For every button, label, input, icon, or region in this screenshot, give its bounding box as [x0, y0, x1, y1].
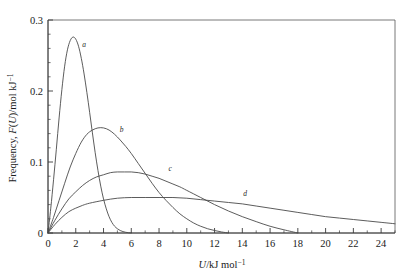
curve-label-a: a: [82, 40, 86, 49]
x-tick-label: 4: [101, 238, 107, 249]
y-tick-label: 0: [38, 228, 43, 239]
x-tick-label: 6: [129, 238, 134, 249]
x-tick-label: 12: [209, 238, 220, 249]
x-tick-label: 18: [293, 238, 304, 249]
x-tick-label: 20: [320, 238, 331, 249]
y-axis-title: Frequency, F(U)/mol kJ−1: [6, 73, 20, 182]
curve-label-d: d: [243, 189, 247, 198]
x-tick-label: 24: [376, 238, 387, 249]
x-tick-label: 10: [182, 238, 193, 249]
figure-container: 024681012141618202224 00.10.20.3 abcd U/…: [0, 0, 408, 276]
x-tick-label: 2: [73, 238, 78, 249]
curve-label-b: b: [120, 125, 124, 134]
y-tick-label: 0.1: [30, 157, 43, 168]
x-axis-title-units: /kJ mol: [206, 259, 237, 270]
chart-background: [0, 0, 408, 276]
y-axis-title-exponent: −1: [6, 73, 15, 81]
x-axis-title-exponent: −1: [237, 258, 245, 267]
x-tick-label: 22: [348, 238, 359, 249]
x-tick-label: 8: [156, 238, 161, 249]
distribution-chart: 024681012141618202224 00.10.20.3 abcd U/…: [0, 0, 408, 276]
y-tick-label: 0.2: [30, 86, 43, 97]
y-axis-title-units: /mol kJ: [7, 81, 18, 112]
x-tick-label: 16: [265, 238, 276, 249]
y-axis-title-lead: Frequency,: [7, 134, 18, 183]
x-tick-label: 0: [45, 238, 50, 249]
y-tick-label: 0.3: [30, 15, 43, 26]
x-tick-label: 14: [237, 238, 248, 249]
